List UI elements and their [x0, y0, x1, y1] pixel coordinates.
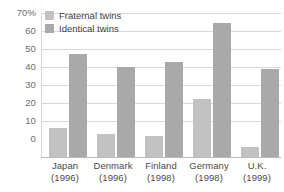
bar-identical-japan — [69, 54, 87, 157]
x-label-japan-name: Japan — [52, 160, 78, 171]
gridline-baseline-0 — [41, 157, 281, 158]
bar-fraternal-finland — [145, 136, 163, 157]
y-axis-labels: 70% 60 50 40 30 20 10 0 — [0, 0, 36, 192]
bar-fraternal-uk — [241, 147, 259, 157]
y-tick-label-40: 40 — [0, 62, 36, 72]
x-label-germany-name: Germany — [189, 160, 228, 171]
legend-item-identical-twins: Identical twins — [45, 22, 121, 34]
x-label-uk-year: (1999) — [233, 172, 281, 184]
legend-swatch-icon-identical — [45, 24, 54, 33]
x-label-japan-year: (1996) — [41, 172, 89, 184]
x-axis-labels: Japan (1996) Denmark (1996) Finland (199… — [41, 160, 284, 192]
x-label-uk-name: U.K. — [248, 160, 267, 171]
x-label-finland-name: Finland — [145, 160, 177, 171]
chart-legend: Fraternal twins Identical twins — [45, 9, 121, 35]
legend-label-fraternal: Fraternal twins — [59, 10, 121, 21]
y-tick-label-10: 10 — [0, 116, 36, 126]
x-label-finland: Finland (1998) — [137, 160, 185, 183]
x-label-germany-year: (1998) — [185, 172, 233, 184]
y-tick-label-0: 0 — [0, 134, 36, 144]
y-tick-label-70: 70% — [0, 8, 36, 18]
bar-fraternal-japan — [49, 128, 67, 157]
legend-item-fraternal-twins: Fraternal twins — [45, 9, 121, 21]
bar-identical-denmark — [117, 67, 135, 158]
x-label-denmark: Denmark (1996) — [89, 160, 137, 183]
y-tick-label-50: 50 — [0, 44, 36, 54]
x-label-finland-year: (1998) — [137, 172, 185, 184]
x-label-uk: U.K. (1999) — [233, 160, 281, 183]
bar-identical-finland — [165, 62, 183, 157]
bar-fraternal-denmark — [97, 134, 115, 157]
legend-swatch-icon-fraternal — [45, 11, 54, 20]
y-tick-label-60: 60 — [0, 26, 36, 36]
twin-birth-rate-bar-chart: 70% 60 50 40 30 20 10 0 — [0, 0, 284, 192]
x-label-denmark-year: (1996) — [89, 172, 137, 184]
y-tick-label-30: 30 — [0, 80, 36, 90]
bar-identical-germany — [213, 23, 231, 157]
bar-identical-uk — [261, 69, 279, 157]
x-label-denmark-name: Denmark — [94, 160, 133, 171]
x-label-japan: Japan (1996) — [41, 160, 89, 183]
legend-label-identical: Identical twins — [59, 23, 119, 34]
x-label-germany: Germany (1998) — [185, 160, 233, 183]
y-tick-label-20: 20 — [0, 98, 36, 108]
bar-fraternal-germany — [193, 99, 211, 157]
